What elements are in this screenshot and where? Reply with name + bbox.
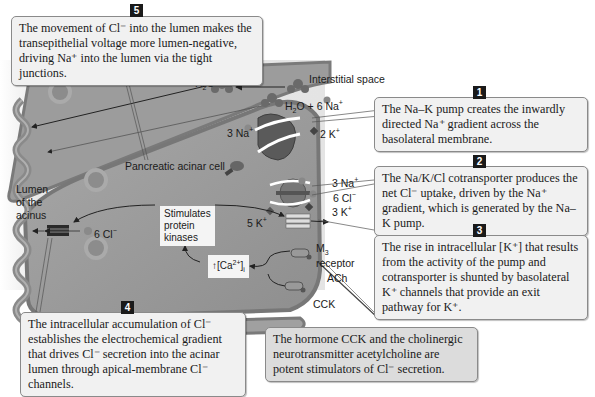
label-6cl-apical: 6 Cl− [94, 225, 117, 240]
callout-text: The hormone CCK and the cholinergic neur… [273, 332, 463, 376]
callout-text: The Na/K/Cl cotransporter produces the n… [382, 171, 578, 230]
callout-number-badge: 2 [473, 155, 486, 168]
label-3na-pump: 3 Na+ [227, 124, 253, 139]
granule [86, 238, 106, 258]
callout-number-badge: 5 [130, 4, 143, 17]
callout-3: 3 The rise in intracellular [K⁺] that re… [374, 235, 588, 320]
callout-number-badge: 1 [473, 86, 486, 99]
label-5k: 5 K+ [247, 214, 267, 229]
label-m3-receptor: M3receptor [316, 243, 355, 269]
label-cck: CCK [313, 298, 335, 310]
callout-cck-ach: The hormone CCK and the cholinergic neur… [265, 327, 478, 382]
callout-text: The rise in intracellular [K⁺] that resu… [382, 240, 578, 314]
callout-4: 4 The intracellular accumulation of Cl⁻ … [20, 312, 246, 397]
label-interstitial-space: Interstitial space [309, 73, 385, 85]
cck-receptor [285, 282, 303, 290]
m3-receptor [291, 249, 309, 257]
label-cell: Pancreatic acinar cell [125, 160, 225, 172]
label-intracellular-ca: ↑[Ca2+]i [208, 255, 249, 278]
label-ach: ACh [327, 272, 347, 284]
callout-5: 5 The movement of Cl⁻ into the lumen mak… [11, 16, 263, 86]
k-channel [286, 214, 310, 228]
callout-number-badge: 4 [121, 301, 134, 314]
label-3na-co: 3 Na+ [332, 174, 358, 189]
label-h2o-6na: H2O + 6 Na+ [285, 97, 343, 117]
label-stimulates-protein-kinases: Stimulates protein kinases [160, 206, 215, 246]
label-3k-co: 3 K+ [332, 203, 352, 218]
granule [86, 170, 106, 190]
callout-text: The movement of Cl⁻ into the lumen makes… [19, 21, 252, 80]
label-2k-pump: 2 K+ [320, 125, 340, 140]
callout-number-badge: 3 [473, 224, 486, 237]
label-6cl-co: 6 Cl− [333, 189, 356, 204]
callout-1: 1 The Na–K pump creates the inwardly dir… [374, 97, 588, 152]
callout-text: The Na–K pump creates the inwardly direc… [382, 102, 565, 146]
callout-text: The intracellular accumulation of Cl⁻ es… [28, 317, 222, 391]
label-lumen: Lumen of the acinus [16, 183, 48, 222]
